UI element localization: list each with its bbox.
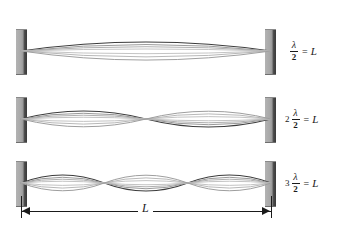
harmonic-row-1: λ 2 = L (0, 26, 341, 76)
extension-line-right (271, 196, 272, 218)
wave-snapshot-group-3 (21, 175, 271, 191)
equals-sign: = (302, 46, 308, 57)
fraction-denominator: 2 (292, 120, 299, 130)
lambda-over-two-fraction: λ 2 (292, 108, 300, 130)
wave-snapshot (21, 49, 271, 51)
standing-wave-diagram: λ 2 = L 2 λ (0, 0, 341, 236)
equation-label-mode-3: 3 λ 2 = L (285, 172, 318, 194)
wave-snapshot-group-2 (21, 111, 271, 127)
equals-sign: = (304, 114, 310, 125)
fraction-denominator: 2 (291, 52, 298, 62)
equation-coefficient: 3 (285, 178, 290, 188)
arrow-head-right-icon (262, 207, 270, 215)
equation-coefficient: 2 (285, 114, 290, 124)
harmonic-row-2: 2 λ 2 = L (0, 94, 341, 144)
fraction-numerator: λ (292, 108, 298, 119)
wave-snapshot-group-1 (21, 42, 271, 60)
length-symbol: L (312, 113, 318, 125)
lambda-over-two-fraction: λ 2 (292, 172, 300, 194)
fraction-denominator: 2 (292, 184, 299, 194)
equation-label-mode-1: λ 2 = L (288, 40, 317, 62)
fraction-numerator: λ (291, 40, 297, 51)
equals-sign: = (304, 178, 310, 189)
arrow-head-left-icon (22, 207, 30, 215)
wave-snapshot (21, 181, 271, 185)
length-dimension: L (0, 196, 341, 236)
length-symbol: L (312, 177, 318, 189)
lambda-over-two-fraction: λ 2 (290, 40, 298, 62)
wave-snapshot (21, 111, 271, 127)
dimension-label-L: L (138, 202, 153, 214)
fraction-numerator: λ (292, 172, 298, 183)
equation-label-mode-2: 2 λ 2 = L (285, 108, 318, 130)
wave-snapshot (21, 51, 271, 54)
length-symbol: L (311, 45, 317, 57)
